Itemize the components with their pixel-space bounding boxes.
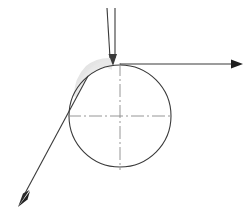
background-rect bbox=[0, 0, 250, 217]
technical-diagram bbox=[0, 0, 250, 217]
diagram-canvas bbox=[0, 0, 250, 217]
